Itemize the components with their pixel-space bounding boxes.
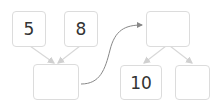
box-right-top [146, 11, 190, 47]
box-right-bottom-right [175, 65, 210, 100]
arrow-5-to-sum [30, 46, 54, 63]
box-sum [33, 64, 79, 100]
box-right-bottom-left: 10 [120, 65, 162, 100]
box-value: 8 [76, 19, 87, 39]
box-top-right: 8 [64, 11, 98, 47]
arrow-8-to-sum [58, 46, 80, 63]
box-top-left: 5 [12, 11, 46, 47]
box-value: 10 [130, 73, 152, 93]
arrow-top-to-empty [170, 46, 192, 63]
arrow-top-to-10 [144, 46, 166, 63]
box-value: 5 [24, 19, 35, 39]
